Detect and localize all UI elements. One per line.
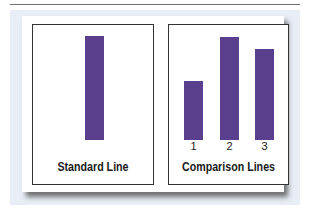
- comparison-lines-label: Comparison Lines: [180, 159, 278, 174]
- standard-line-panel: Standard Line: [32, 24, 154, 185]
- comparison-bar-3: [255, 49, 274, 140]
- figure-card: Standard Line 1 2 3 Comparison Lines: [22, 16, 284, 192]
- comparison-bar-2: [220, 37, 239, 140]
- comparison-bar-1: [184, 81, 203, 140]
- comparison-number-2: 2: [220, 140, 239, 152]
- comparison-lines-panel: 1 2 3 Comparison Lines: [168, 24, 289, 185]
- top-rule: [10, 4, 300, 5]
- standard-line-label: Standard Line: [44, 159, 142, 174]
- comparison-number-1: 1: [184, 140, 203, 152]
- standard-bar: [85, 36, 104, 140]
- comparison-number-3: 3: [255, 140, 274, 152]
